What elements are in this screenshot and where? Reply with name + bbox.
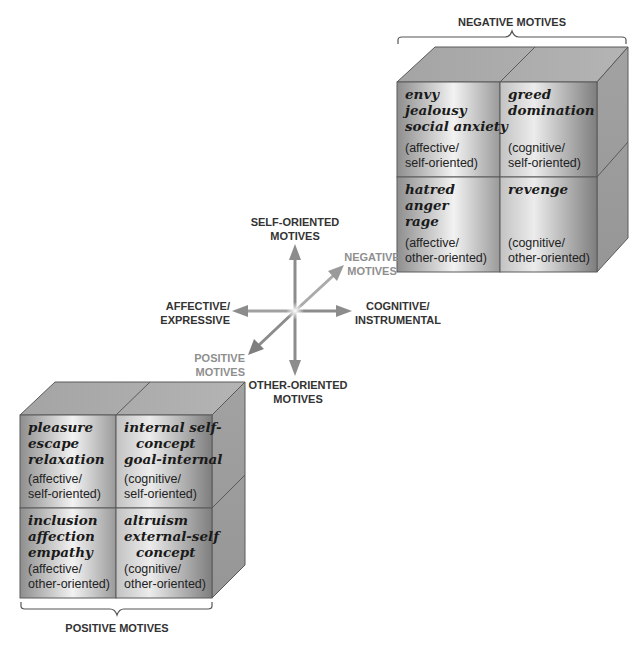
axis-label-positive-motives: POSITIVE MOTIVES (180, 351, 245, 379)
arrow-right-icon (336, 305, 352, 317)
cell-negative-affective-self: envy jealousy social anxiety (affective/… (397, 82, 500, 177)
classification-label: (cognitive/ self-oriented) (124, 472, 197, 502)
arrow-down-icon (289, 360, 301, 376)
classification-label: (affective/ self-oriented) (405, 141, 478, 171)
motive-list: hatred anger rage (405, 181, 500, 229)
cell-positive-affective-other: inclusion affection empathy (affective/ … (20, 508, 116, 598)
axis-arrows (232, 244, 352, 376)
positive-motives-title: POSITIVE MOTIVES (62, 622, 172, 634)
axis-label-other-oriented: OTHER-ORIENTED MOTIVES (243, 378, 353, 406)
motive-list: revenge (508, 181, 597, 197)
axis-label-negative-motives: NEGATIVE MOTIVES (342, 250, 402, 278)
classification-label: (cognitive/ self-oriented) (508, 141, 581, 171)
cell-positive-affective-self: pleasure escape relaxation (affective/ s… (20, 415, 116, 508)
motive-list: altruism external-self concept (124, 512, 212, 560)
classification-label: (affective/ self-oriented) (28, 472, 101, 502)
motive-list: envy jealousy social anxiety (405, 86, 500, 134)
axis-label-cognitive-instrumental: COGNITIVE/ INSTRUMENTAL (355, 299, 465, 327)
motive-list: inclusion affection empathy (28, 512, 116, 560)
classification-label: (affective/ other-oriented) (405, 236, 487, 266)
cell-positive-cognitive-self: internal self- concept goal-internal (co… (116, 415, 212, 508)
arrow-up-icon (289, 244, 301, 260)
classification-label: (cognitive/ other-oriented) (124, 562, 206, 592)
cell-negative-cognitive-self: greed domination (cognitive/ self-orient… (500, 82, 597, 177)
negative-motives-title: NEGATIVE MOTIVES (457, 16, 567, 28)
motive-list: internal self- concept goal-internal (124, 419, 212, 467)
cell-negative-cognitive-other: revenge (cognitive/ other-oriented) (500, 177, 597, 272)
cell-negative-affective-other: hatred anger rage (affective/ other-orie… (397, 177, 500, 272)
axis-label-self-oriented: SELF-ORIENTED MOTIVES (245, 215, 345, 243)
motive-list: greed domination (508, 86, 597, 118)
classification-label: (affective/ other-oriented) (28, 562, 110, 592)
classification-label: (cognitive/ other-oriented) (508, 236, 590, 266)
axis-label-affective-expressive: AFFECTIVE/ EXPRESSIVE (150, 299, 230, 327)
arrow-left-icon (232, 305, 248, 317)
cell-positive-cognitive-other: altruism external-self concept (cognitiv… (116, 508, 212, 598)
motive-list: pleasure escape relaxation (28, 419, 116, 467)
